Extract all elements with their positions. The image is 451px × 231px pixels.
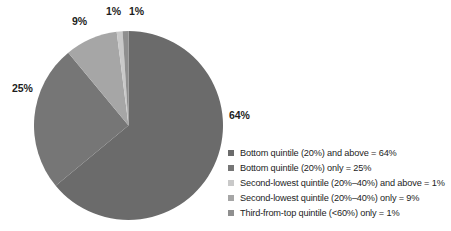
pie-slice-group [34, 31, 223, 220]
legend-swatch-icon [228, 195, 234, 201]
legend-swatch-icon [228, 210, 234, 216]
chart-legend: Bottom quintile (20%) and above = 64%Bot… [228, 146, 451, 221]
pie-data-label-1-b: 1% [129, 6, 144, 17]
legend-item[interactable]: Third-from-top quintile (<60%) only = 1% [228, 206, 451, 221]
legend-item-label: Bottom quintile (20%) only = 25% [240, 161, 371, 175]
legend-item-label: Second-lowest quintile (20%–40%) only = … [240, 191, 419, 205]
pie-chart-svg [0, 0, 260, 231]
pie-chart-figure: 64% 25% 9% 1% 1% Bottom quintile (20%) a… [0, 0, 451, 231]
legend-item[interactable]: Second-lowest quintile (20%–40%) and abo… [228, 176, 451, 191]
legend-item[interactable]: Bottom quintile (20%) and above = 64% [228, 146, 451, 161]
pie-data-label-9: 9% [72, 16, 87, 27]
legend-swatch-icon [228, 150, 234, 156]
pie-chart-plot-area: 64% 25% 9% 1% 1% [0, 0, 260, 231]
legend-swatch-icon [228, 165, 234, 171]
pie-data-label-25: 25% [12, 83, 33, 94]
legend-item-label: Second-lowest quintile (20%–40%) and abo… [240, 176, 445, 190]
legend-item[interactable]: Second-lowest quintile (20%–40%) only = … [228, 191, 451, 206]
legend-swatch-icon [228, 180, 234, 186]
pie-data-label-64: 64% [229, 110, 250, 121]
legend-item-label: Third-from-top quintile (<60%) only = 1% [240, 206, 399, 220]
pie-data-label-1-a: 1% [106, 6, 121, 17]
legend-item-label: Bottom quintile (20%) and above = 64% [240, 146, 397, 160]
legend-item[interactable]: Bottom quintile (20%) only = 25% [228, 161, 451, 176]
